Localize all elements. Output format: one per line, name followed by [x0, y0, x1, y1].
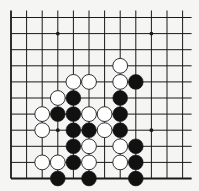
black-stone-icon [113, 107, 128, 122]
white-stone-icon [82, 107, 97, 122]
black-stone-icon [128, 75, 143, 90]
white-stone-icon [113, 155, 128, 170]
white-stone-icon [82, 75, 97, 90]
white-stone-icon [113, 58, 128, 73]
black-stone-icon [66, 123, 81, 138]
star-point-icon [150, 32, 154, 36]
go-board-svg [0, 0, 199, 191]
black-stone-icon [50, 171, 65, 186]
white-stone-icon [113, 75, 128, 90]
go-board [0, 0, 199, 191]
white-stone-icon [66, 75, 81, 90]
black-stone-icon [128, 171, 143, 186]
white-stone-icon [82, 155, 97, 170]
black-stone-icon [82, 123, 97, 138]
star-point-icon [150, 128, 154, 132]
black-stone-icon [128, 139, 143, 154]
black-stone-icon [128, 155, 143, 170]
star-point-icon [56, 128, 60, 132]
black-stone-icon [66, 139, 81, 154]
white-stone-icon [35, 155, 50, 170]
black-stone-icon [113, 91, 128, 106]
white-stone-icon [50, 155, 65, 170]
white-stone-icon [97, 123, 112, 138]
black-stone-icon [50, 107, 65, 122]
white-stone-icon [97, 107, 112, 122]
black-stone-icon [113, 123, 128, 138]
white-stone-icon [35, 123, 50, 138]
grid-lines [11, 11, 192, 179]
black-stone-icon [66, 91, 81, 106]
white-stone-icon [82, 139, 97, 154]
star-point-icon [56, 32, 60, 36]
white-stone-icon [113, 139, 128, 154]
black-stone-icon [66, 155, 81, 170]
white-stone-icon [35, 107, 50, 122]
black-stone-icon [82, 171, 97, 186]
white-stone-icon [50, 91, 65, 106]
black-stone-icon [66, 107, 81, 122]
